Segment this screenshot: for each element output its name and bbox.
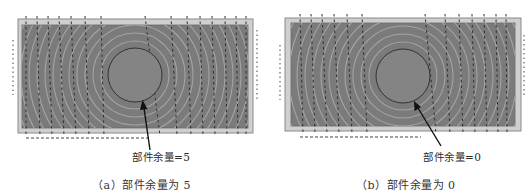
panel-a: 部件余量=5 （a）部件余量为 5 <box>0 0 266 195</box>
allowance-annotation: 部件余量=5 <box>132 149 190 164</box>
panel-b: 部件余量=0 （b）部件余量为 0 <box>266 0 532 195</box>
toolpath-simulation-b <box>266 0 532 195</box>
figure-caption: （b）部件余量为 0 <box>356 176 456 192</box>
central-feature-circle <box>108 48 162 102</box>
allowance-annotation: 部件余量=0 <box>423 149 481 164</box>
toolpath-simulation-a <box>0 0 266 195</box>
central-feature-circle <box>376 49 430 103</box>
figure-caption: （a）部件余量为 5 <box>92 176 191 192</box>
